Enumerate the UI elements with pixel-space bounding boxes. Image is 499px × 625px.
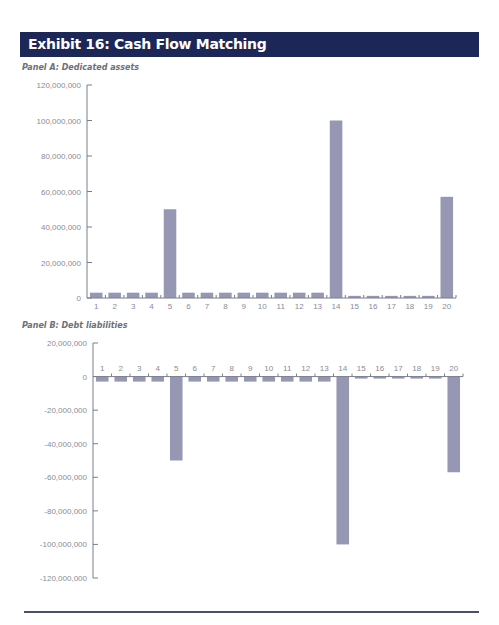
panel-a-bar [238, 293, 251, 298]
panel-b-x-tick-label: 4 [156, 364, 161, 373]
panel-a-x-tick-label: 9 [242, 302, 247, 311]
panel-a-y-tick-label: 40,000,000 [41, 223, 82, 232]
panel-b-x-tick-label: 14 [338, 364, 347, 373]
panel-b-y-tick-label: -40,000,000 [44, 440, 87, 449]
panel-a-bar [201, 293, 214, 298]
panel-b-x-tick-label: 3 [137, 364, 142, 373]
panel-b-bar [96, 377, 109, 382]
panel-b-x-tick-label: 18 [412, 364, 421, 373]
panel-b-x-tick-label: 16 [375, 364, 384, 373]
panel-a-y-tick-label: 120,000,000 [37, 81, 82, 90]
panel-a-x-tick-label: 3 [131, 302, 136, 311]
panel-b-bar [170, 377, 183, 461]
panel-b-x-tick-label: 12 [301, 364, 310, 373]
panel-a-x-tick-label: 4 [149, 302, 154, 311]
panel-a-bar [127, 293, 140, 298]
panel-a-y-tick-label: 100,000,000 [37, 117, 82, 126]
panel-a-x-tick-label: 19 [424, 302, 433, 311]
panel-b-bar [262, 377, 275, 382]
panel-b-bar [281, 377, 294, 382]
panel-b-x-tick-label: 10 [264, 364, 273, 373]
panel-a-bar [274, 293, 287, 298]
panel-b-y-tick-label: 20,000,000 [47, 339, 88, 348]
panel-a-bar [108, 293, 121, 298]
panel-b-bar [151, 377, 164, 382]
panel-a-x-tick-label: 6 [186, 302, 191, 311]
panel-b-x-tick-label: 17 [394, 364, 403, 373]
panel-b-x-tick-label: 7 [211, 364, 216, 373]
panel-a-x-tick-label: 5 [168, 302, 173, 311]
panel-a-x-tick-label: 11 [277, 302, 286, 311]
panel-b-x-tick-label: 15 [357, 364, 366, 373]
panel-a-x-tick-label: 12 [295, 302, 304, 311]
panel-a-x-tick-label: 14 [332, 302, 341, 311]
panel-a-x-tick-label: 18 [405, 302, 414, 311]
panel-b-bar [336, 377, 349, 545]
panel-a-x-tick-label: 8 [223, 302, 228, 311]
panel-b-x-tick-label: 5 [174, 364, 179, 373]
panel-a-bar [311, 293, 324, 298]
panel-b-y-tick-label: 0 [83, 373, 88, 382]
panel-a-bar [145, 293, 158, 298]
panel-b-x-tick-label: 1 [100, 364, 105, 373]
panel-b-y-tick-label: -20,000,000 [44, 406, 87, 415]
panel-b-x-tick-label: 6 [193, 364, 198, 373]
panel-a-y-tick-label: 20,000,000 [41, 259, 82, 268]
bottom-rule [24, 611, 479, 613]
panel-a-bar [293, 293, 306, 298]
panel-b-x-tick-label: 20 [449, 364, 458, 373]
panel-a-x-tick-label: 1 [94, 302, 99, 311]
panel-a-x-tick-label: 10 [258, 302, 267, 311]
panel-a-bar [164, 209, 177, 298]
panel-a-y-tick-label: 0 [77, 294, 82, 303]
panel-b-y-tick-label: -80,000,000 [44, 507, 87, 516]
panel-b-bar [318, 377, 331, 382]
panel-b-x-tick-label: 13 [320, 364, 329, 373]
panel-b-y-tick-label: -120,000,000 [40, 574, 88, 583]
panel-b-bar [225, 377, 238, 382]
panel-a-x-tick-label: 7 [205, 302, 210, 311]
panel-b-y-tick-label: -100,000,000 [40, 540, 88, 549]
panel-a-x-tick-label: 17 [387, 302, 396, 311]
panel-a-y-tick-label: 80,000,000 [41, 152, 82, 161]
panel-b-bar [207, 377, 220, 382]
panel-a-x-tick-label: 13 [313, 302, 322, 311]
panel-a-bar [182, 293, 195, 298]
panel-a-bar [219, 293, 232, 298]
panel-b-bar [244, 377, 257, 382]
panel-b-bar [133, 377, 146, 382]
panel-b-x-tick-label: 11 [283, 364, 292, 373]
panel-a-x-tick-label: 20 [442, 302, 451, 311]
panel-a-y-tick-label: 60,000,000 [41, 188, 82, 197]
panel-b-bar [299, 377, 312, 382]
panel-a-x-tick-label: 15 [350, 302, 359, 311]
panel-a-x-tick-label: 2 [112, 302, 117, 311]
panel-b-x-tick-label: 19 [431, 364, 440, 373]
panel-a-x-tick-label: 16 [369, 302, 378, 311]
cash-flow-chart: 120,000,000100,000,00080,000,00060,000,0… [0, 0, 499, 625]
panel-b-bar [114, 377, 127, 382]
panel-b-x-tick-label: 2 [119, 364, 124, 373]
panel-b-bar [188, 377, 201, 382]
panel-a-bar [441, 197, 454, 298]
panel-a-bar [90, 293, 103, 298]
panel-b-x-tick-label: 8 [230, 364, 235, 373]
panel-a-bar [330, 121, 343, 299]
panel-b-y-tick-label: -60,000,000 [44, 473, 87, 482]
panel-b-bar [447, 377, 460, 473]
panel-a-bar [256, 293, 269, 298]
panel-b-x-tick-label: 9 [248, 364, 253, 373]
